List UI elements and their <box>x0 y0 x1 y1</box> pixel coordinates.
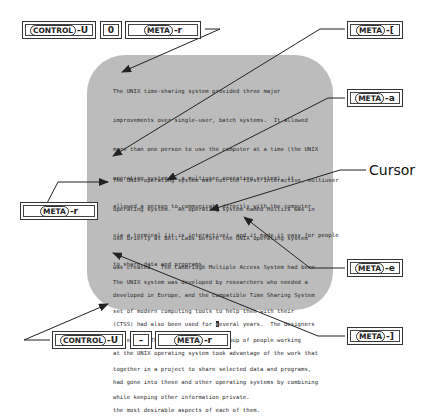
key-suffix: -a <box>385 93 395 103</box>
arrow-meta-a <box>167 98 345 180</box>
key-suffix: -r <box>70 206 78 216</box>
key-cap-label: META <box>356 25 385 36</box>
key-cap-label: META <box>40 206 69 217</box>
key-suffix: -U <box>107 335 118 345</box>
key-control: CONTROL-U <box>22 21 96 39</box>
key-cap-label: META <box>356 331 385 342</box>
key-suffix: 0 <box>108 25 114 35</box>
key-meta-bracket-open: META-[ <box>347 21 403 39</box>
text-line: while keeping other information private. <box>113 393 311 403</box>
text-line: together in a project to share selected … <box>113 365 311 375</box>
arrow-meta-e <box>244 217 345 268</box>
key-control-bottom: CONTROL-U <box>52 331 126 349</box>
key-suffix: -[ <box>386 25 394 35</box>
key-meta-r-top: META-r <box>125 21 201 39</box>
key-cap-label: META <box>355 93 384 104</box>
key-suffix: -] <box>386 331 394 341</box>
cursor-pointer-line <box>210 170 366 210</box>
key-cap-label: CONTROL <box>30 25 76 36</box>
arrow-meta-bracket-open <box>113 29 345 156</box>
key-meta-bracket-close: META-] <box>347 327 403 345</box>
key-meta-r-bottom: META-r <box>155 331 231 349</box>
key-suffix: -r <box>204 335 212 345</box>
key-cap-label: META <box>144 25 173 36</box>
key-suffix: – <box>139 335 144 345</box>
key-meta-e: META-e <box>347 259 403 277</box>
arrow-meta-bracket-close <box>113 253 345 336</box>
key-cap-label: META <box>174 335 203 346</box>
key-minus: – <box>130 331 152 349</box>
key-suffix: -U <box>77 25 88 35</box>
key-cap-label: META <box>355 263 384 274</box>
key-meta-r-left: META-r <box>20 202 98 220</box>
key-zero: 0 <box>100 21 122 39</box>
key-meta-a: META-a <box>347 89 403 107</box>
key-cap-label: CONTROL <box>60 335 106 346</box>
key-suffix: -e <box>385 263 395 273</box>
key-suffix: -r <box>174 25 182 35</box>
cursor-label: Cursor <box>369 162 415 178</box>
